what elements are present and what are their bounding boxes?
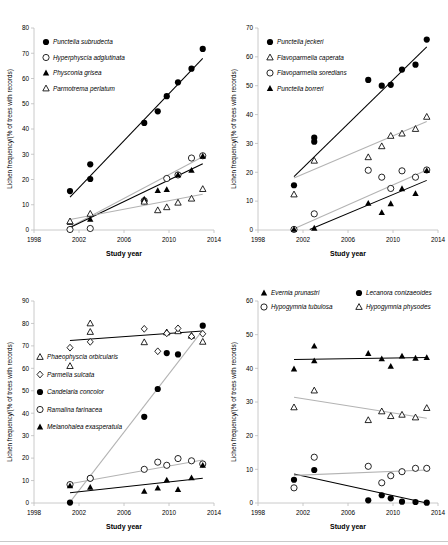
svg-text:Melanohalea exasperatula: Melanohalea exasperatula	[47, 423, 122, 431]
data-point	[141, 325, 147, 332]
legend-entry: Lecanora conizaeoides	[356, 289, 433, 296]
data-point	[399, 66, 405, 72]
svg-text:Study year: Study year	[330, 250, 366, 258]
svg-text:2010: 2010	[162, 509, 177, 516]
legend-entry: Melanohalea exasperatula	[37, 423, 123, 431]
svg-text:0: 0	[25, 226, 29, 233]
data-point	[67, 344, 73, 351]
data-point	[379, 143, 385, 149]
data-point	[311, 225, 317, 231]
svg-text:2006: 2006	[117, 509, 132, 516]
data-point	[399, 185, 405, 191]
data-point	[291, 191, 297, 197]
svg-text:2014: 2014	[431, 236, 446, 243]
data-point	[155, 386, 161, 392]
data-point	[188, 474, 194, 480]
data-point	[379, 492, 385, 498]
svg-text:Candelaria concolor: Candelaria concolor	[47, 388, 105, 395]
data-point	[87, 225, 93, 231]
data-point	[164, 350, 170, 356]
svg-text:Parmotrema perlatum: Parmotrema perlatum	[53, 85, 115, 93]
svg-text:50: 50	[246, 82, 254, 89]
svg-text:60: 60	[246, 297, 254, 304]
svg-text:90: 90	[22, 297, 30, 304]
svg-text:Flavoparmelia soredians: Flavoparmelia soredians	[277, 69, 347, 77]
data-point	[164, 204, 170, 210]
data-point	[365, 350, 371, 356]
data-point	[365, 497, 371, 503]
lichen-frequency-figure: 0102030405060708019982002200620102014Stu…	[0, 0, 448, 545]
data-point	[87, 320, 93, 326]
svg-text:Punctelia jeckeri: Punctelia jeckeri	[277, 38, 324, 46]
svg-text:60: 60	[246, 53, 254, 60]
data-point	[365, 417, 371, 423]
data-point	[175, 325, 181, 332]
svg-text:Lichen frequency/(% of trees w: Lichen frequency/(% of trees with record…	[230, 342, 238, 462]
data-point	[175, 351, 181, 357]
data-point	[87, 329, 93, 335]
panel-bottom-left-plot: 010203040506070809019982002200620102014S…	[0, 273, 224, 545]
svg-text:2002: 2002	[296, 509, 311, 516]
data-point	[424, 500, 430, 506]
data-point	[388, 473, 394, 479]
data-point	[388, 185, 394, 191]
svg-text:50: 50	[22, 387, 30, 394]
svg-text:30: 30	[22, 151, 30, 158]
data-point	[424, 354, 430, 360]
data-point	[311, 454, 317, 460]
data-point	[388, 495, 394, 501]
svg-text:1998: 1998	[251, 509, 266, 516]
data-point	[87, 210, 93, 216]
legend-entry: Hyperphyscia adglutinata	[43, 54, 125, 62]
data-point	[155, 485, 161, 491]
svg-text:30: 30	[246, 398, 254, 405]
data-point	[175, 79, 181, 85]
svg-text:20: 20	[246, 169, 254, 176]
legend-entry: Punctelia borreri	[267, 85, 324, 92]
panel-bottom-left: 010203040506070809019982002200620102014S…	[0, 273, 224, 545]
svg-text:Punctelia borreri: Punctelia borreri	[277, 85, 324, 92]
legend-entry: Hypogymnia tubulosa	[261, 303, 333, 311]
svg-text:Study year: Study year	[106, 250, 142, 258]
data-point	[87, 475, 93, 481]
panel-top-left: 0102030405060708019982002200620102014Stu…	[0, 0, 224, 272]
data-point	[311, 358, 317, 364]
data-point	[311, 387, 317, 393]
svg-text:1998: 1998	[27, 236, 42, 243]
data-point	[164, 330, 170, 337]
data-point	[412, 126, 418, 132]
data-point	[155, 108, 161, 114]
legend-entry: Hypogymnia physodes	[356, 303, 432, 311]
data-point	[175, 455, 181, 461]
svg-text:Lecanora conizaeoides: Lecanora conizaeoides	[366, 289, 433, 296]
legend-entry: Punctelia subrudecta	[43, 38, 113, 45]
svg-text:2002: 2002	[296, 236, 311, 243]
svg-text:10: 10	[22, 201, 30, 208]
svg-text:2002: 2002	[72, 236, 87, 243]
svg-text:0: 0	[25, 499, 29, 506]
data-point	[412, 465, 418, 471]
svg-text:1998: 1998	[251, 236, 266, 243]
data-point	[399, 353, 405, 359]
svg-text:2010: 2010	[386, 509, 401, 516]
data-point	[141, 466, 147, 472]
data-point	[365, 463, 371, 469]
data-point	[155, 187, 161, 193]
data-point	[291, 404, 297, 410]
data-point	[87, 161, 93, 167]
svg-text:50: 50	[22, 100, 30, 107]
data-point	[87, 176, 93, 182]
data-point	[424, 465, 430, 471]
data-point	[424, 36, 430, 42]
svg-text:Hypogymnia physodes: Hypogymnia physodes	[366, 303, 431, 311]
data-point	[200, 338, 206, 344]
legend-entry: Ramalina farinacea	[37, 406, 103, 413]
panel-bottom-right-plot: 010203040506019982002200620102014Study y…	[224, 273, 448, 545]
data-point	[365, 167, 371, 173]
svg-text:Study year: Study year	[330, 523, 366, 531]
svg-text:10: 10	[22, 477, 30, 484]
data-point	[291, 477, 297, 483]
svg-text:40: 40	[246, 365, 254, 372]
data-point	[155, 207, 161, 213]
svg-text:60: 60	[22, 75, 30, 82]
